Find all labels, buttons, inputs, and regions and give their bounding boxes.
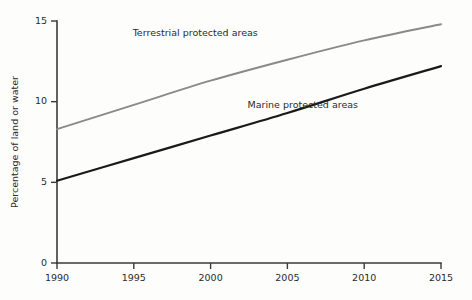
line-chart: 051015 Percentage of land or water 19901… (0, 0, 472, 300)
chart-container: 051015 Percentage of land or water 19901… (0, 0, 472, 300)
y-tick-group: 051015 (35, 15, 57, 268)
y-tick-label: 0 (41, 257, 47, 268)
series-line (57, 24, 441, 129)
series-line (57, 66, 441, 181)
x-tick-label: 2010 (352, 272, 376, 283)
x-tick-label: 1995 (122, 272, 146, 283)
x-tick-label: 1990 (45, 272, 69, 283)
y-tick-label: 5 (41, 176, 47, 187)
y-tick-label: 10 (35, 95, 47, 106)
y-axis-title: Percentage of land or water (9, 76, 20, 208)
x-tick-label: 2005 (275, 272, 299, 283)
x-axis-group: 199019952000200520102015 (45, 263, 453, 283)
series-annotation-label: Marine protected areas (247, 99, 358, 110)
y-tick-label: 15 (35, 15, 47, 26)
x-tick-label: 2015 (429, 272, 453, 283)
series-annotation-label: Terrestrial protected areas (132, 27, 258, 38)
x-tick-group: 199019952000200520102015 (45, 263, 453, 283)
y-axis-group: 051015 Percentage of land or water (9, 15, 57, 268)
annotation-group: Terrestrial protected areasMarine protec… (132, 27, 358, 111)
x-tick-label: 2000 (199, 272, 223, 283)
